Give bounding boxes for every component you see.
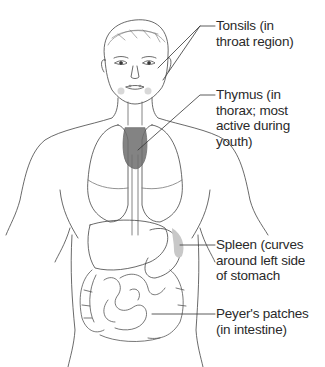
thymus-organ [123, 128, 147, 169]
label-thymus: Thymus (in thorax; most active during yo… [216, 87, 290, 149]
spleen-organ [172, 228, 184, 258]
intestines [80, 270, 186, 342]
abdominal-organs [88, 220, 180, 278]
label-peyers-patches: Peyer's patches (in intestine) [216, 306, 309, 337]
label-tonsils: Tonsils (in throat region) [216, 18, 294, 49]
leader-lines [138, 26, 215, 314]
label-spleen: Spleen (curves around left side of stoma… [216, 237, 305, 284]
head-outline [101, 20, 171, 104]
